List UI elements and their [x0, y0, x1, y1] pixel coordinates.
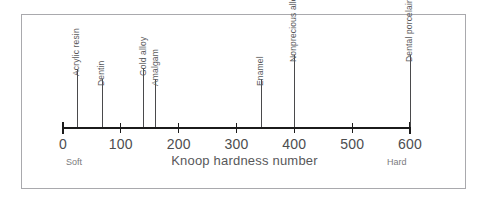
- axis-tick-label: 0: [33, 136, 93, 152]
- hardness-scale-chart: 0100200300400500600 Acrylic resinDentinG…: [22, 15, 467, 190]
- axis-tick-label: 200: [149, 136, 209, 152]
- marker-stem: [261, 79, 262, 127]
- marker-stem: [294, 55, 295, 127]
- axis-tick-label: 100: [91, 136, 151, 152]
- marker-stem: [410, 55, 411, 127]
- marker-stem: [102, 79, 103, 127]
- hard-label: Hard: [387, 157, 407, 167]
- axis-tick-label: 300: [207, 136, 267, 152]
- marker-label: Dental porcelain: [404, 0, 414, 62]
- marker-label: Gold alloy: [138, 37, 148, 76]
- marker-label: Acrylic resin: [71, 28, 81, 76]
- marker-label: Nonprecious alloy: [288, 0, 298, 62]
- marker-label: Enamel: [255, 56, 265, 86]
- axis-tick: [120, 123, 121, 133]
- marker-label: Amalgam: [150, 49, 160, 86]
- axis-tick-label: 500: [322, 136, 382, 152]
- axis-tick-label: 600: [380, 136, 440, 152]
- axis-tick: [352, 123, 353, 133]
- axis-tick: [178, 123, 179, 133]
- marker-label: Dentin: [96, 61, 106, 86]
- figure-frame: 0100200300400500600 Acrylic resinDentinG…: [21, 14, 466, 189]
- axis-tick: [236, 123, 237, 133]
- marker-stem: [155, 79, 156, 127]
- axis-tick-label: 400: [264, 136, 324, 152]
- marker-stem: [77, 69, 78, 127]
- axis-tick: [63, 123, 64, 133]
- marker-stem: [143, 69, 144, 127]
